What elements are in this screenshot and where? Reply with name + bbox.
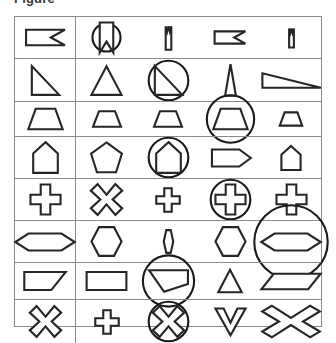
shape-x-cross <box>25 301 66 342</box>
hexagon-wide-icon <box>261 233 321 250</box>
shape-parallelogram <box>18 265 72 297</box>
shape-cell-r3-c4 <box>199 101 261 136</box>
trapezoid-icon <box>213 109 247 129</box>
cross-icon <box>95 310 118 333</box>
rectangle-icon <box>87 272 127 290</box>
banner-notched-top-narrow-icon <box>289 28 294 47</box>
shape-grid <box>14 16 322 327</box>
shape-cell-r5-c4 <box>199 178 261 220</box>
shape-hexagon-wide <box>253 225 329 259</box>
cross-icon <box>156 188 179 211</box>
shape-cell-r4-c2 <box>76 136 137 178</box>
trapezoid-icon <box>28 109 62 129</box>
cross-icon <box>30 184 60 214</box>
shape-cross <box>25 179 66 220</box>
shape-x-cross-wide <box>255 300 327 343</box>
chevron-down-icon <box>215 309 245 336</box>
shape-cell-r6-c4 <box>199 220 261 262</box>
shape-trapezoid <box>275 108 307 130</box>
shape-triangle <box>214 265 246 297</box>
shape-cross <box>271 179 312 220</box>
shape-x-cross <box>148 301 189 342</box>
shape-cell-r4-c1 <box>15 136 76 178</box>
pentagon-tall-icon <box>33 142 58 173</box>
shape-cell-r1-c2 <box>76 17 137 58</box>
shape-triangle <box>86 60 127 101</box>
shape-cross <box>91 306 123 338</box>
right-trapezoid-icon <box>149 270 188 292</box>
shape-trapezoid <box>206 102 255 136</box>
shape-trapezoid <box>21 102 70 136</box>
shape-trapezoid <box>148 106 188 132</box>
hexagon-icon <box>91 227 121 256</box>
parallelogram-icon <box>24 272 65 290</box>
x-cross-icon <box>29 306 60 337</box>
shape-banner-notched-top-narrow <box>286 25 297 51</box>
triangle-icon <box>91 66 121 95</box>
hexagon-icon <box>215 227 245 256</box>
hexagon-wide-icon <box>15 233 75 250</box>
shape-cell-r3-c2 <box>76 101 137 136</box>
pentagon-tall-icon <box>156 142 181 173</box>
trapezoid-icon <box>154 111 182 127</box>
shape-cell-r7-c4 <box>199 262 261 299</box>
shape-cell-r8-c5 <box>261 299 321 343</box>
triangle-narrow-icon <box>225 64 236 96</box>
parallelogram-flat-icon <box>261 273 320 289</box>
shape-cell-r6-c2 <box>76 220 137 262</box>
shape-cell-r4-c4 <box>199 136 261 178</box>
shape-hexagon <box>86 221 127 262</box>
cross-icon <box>276 184 306 214</box>
trapezoid-icon <box>280 112 302 125</box>
cross-icon <box>215 184 245 214</box>
shape-cell-r2-c1 <box>15 58 76 101</box>
shape-cell-r7-c1 <box>15 262 76 299</box>
shape-cell-r5-c5 <box>261 178 321 220</box>
shape-cell-r2-c3 <box>137 58 199 101</box>
hexagon-narrow-icon <box>163 230 173 253</box>
flag-pennant-notched-right-icon <box>26 30 65 45</box>
figure-caption: Figure <box>14 0 55 6</box>
shape-flag-pennant-notched-right <box>209 26 251 49</box>
shape-pentagon-right <box>204 142 257 174</box>
shape-trapezoid <box>87 106 127 132</box>
shape-cell-r5-c3 <box>137 178 199 220</box>
shape-cell-r4-c5 <box>261 136 321 178</box>
shape-cell-r5-c1 <box>15 178 76 220</box>
shape-cell-r7-c3 <box>137 262 199 299</box>
shape-pentagon <box>86 137 127 178</box>
shape-cell-r8-c4 <box>199 299 261 343</box>
shape-chevron-down <box>210 303 251 340</box>
pentagon-right-icon <box>211 149 250 166</box>
flag-pennant-notched-right-icon <box>215 31 246 43</box>
right-triangle-icon <box>31 66 58 95</box>
right-triangle-icon <box>154 66 181 95</box>
banner-notched-top-narrow-icon <box>165 26 171 49</box>
shape-cell-r1-c4 <box>199 17 261 58</box>
shape-cell-r1-c1 <box>15 17 76 58</box>
shape-cross <box>210 179 251 220</box>
shape-pentagon-tall <box>25 137 66 178</box>
pentagon-tall-icon <box>281 146 300 170</box>
shape-cell-r8-c3 <box>137 299 199 343</box>
shape-rectangle <box>80 264 133 298</box>
shape-cell-r7-c2 <box>76 262 137 299</box>
shape-right-triangle <box>25 60 66 101</box>
shape-cell-r3-c5 <box>261 101 321 136</box>
triangle-icon <box>218 270 241 292</box>
shape-cell-r5-c2 <box>76 178 137 220</box>
shape-pentagon-tall <box>275 142 307 174</box>
pentagon-icon <box>91 142 122 172</box>
shape-cell-r2-c5 <box>261 58 321 101</box>
shape-cell-r3-c1 <box>15 101 76 136</box>
x-cross-icon <box>152 306 183 337</box>
shape-right-triangle-flat <box>252 65 330 96</box>
shape-cell-r8-c1 <box>15 299 76 343</box>
trapezoid-icon <box>93 111 121 127</box>
shape-cell-r4-c3 <box>137 136 199 178</box>
shape-cell-r3-c3 <box>137 101 199 136</box>
x-cross-wide-icon <box>262 306 320 338</box>
banner-notched-bottom-icon <box>100 22 114 52</box>
shape-right-trapezoid <box>142 263 195 299</box>
shape-pentagon-tall <box>148 137 189 178</box>
